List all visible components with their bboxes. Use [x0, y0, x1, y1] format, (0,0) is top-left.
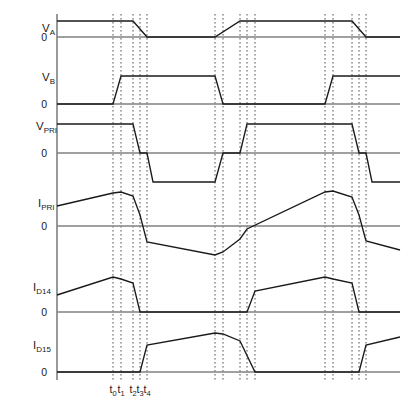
time-label-t0: t0	[109, 383, 116, 398]
signal-label-I_D15: ID15	[33, 339, 51, 354]
signal-label-subscript: D15	[36, 345, 51, 354]
trace-I_PRI	[57, 191, 400, 255]
signal-traces	[57, 21, 400, 372]
signal-label-V_PRI: VPRI	[36, 120, 57, 135]
time-axis-labels: t0t1t2t3t4	[109, 383, 150, 398]
zero-label-I_D14: 0	[41, 306, 47, 318]
zero-label-V_B: 0	[41, 98, 47, 110]
time-label-t1: t1	[117, 383, 124, 398]
zero-label-I_PRI: 0	[41, 220, 47, 232]
signal-label-subscript: PRI	[41, 203, 54, 212]
time-label-subscript: 0	[112, 389, 116, 398]
time-label-subscript: 1	[120, 389, 124, 398]
signal-label-I_D14: ID14	[33, 281, 51, 296]
zero-label-V_A: 0	[41, 31, 47, 43]
trace-V_B	[57, 76, 400, 104]
trace-I_D14	[57, 277, 400, 312]
zero-label-V_PRI: 0	[41, 147, 47, 159]
time-label-t4: t4	[143, 383, 150, 398]
signal-label-subscript: B	[50, 77, 55, 86]
signal-label-subscript: D14	[36, 287, 51, 296]
zero-reference-lines	[57, 37, 400, 372]
trace-V_A	[57, 21, 400, 37]
zero-label-I_D15: 0	[41, 366, 47, 378]
signal-label-subscript: A	[50, 28, 56, 37]
trace-I_D15	[57, 333, 400, 372]
time-label-subscript: 4	[146, 389, 150, 398]
time-marker-lines	[113, 14, 366, 380]
signal-label-V_B: VB	[42, 71, 55, 86]
waveform-timing-diagram: VA0VB0VPRI0IPRI0ID140ID150 t0t1t2t3t4	[0, 0, 405, 407]
waveform-svg: VA0VB0VPRI0IPRI0ID140ID150 t0t1t2t3t4	[0, 0, 405, 407]
signal-label-subscript: PRI	[44, 126, 57, 135]
signal-axis-labels: VA0VB0VPRI0IPRI0ID140ID150	[33, 22, 57, 378]
signal-label-I_PRI: IPRI	[38, 197, 55, 212]
